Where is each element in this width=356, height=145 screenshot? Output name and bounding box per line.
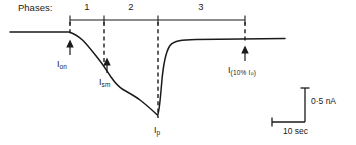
- phase-number-1: 1: [84, 2, 89, 12]
- label-i-p: Ip: [154, 126, 160, 136]
- label-i-10-percent-ip: I(10% Iₚ): [228, 66, 256, 76]
- phase-number-3: 3: [198, 2, 203, 12]
- arrow-i-on: [67, 41, 73, 55]
- phase-number-2: 2: [128, 2, 133, 12]
- scale-bar-group: [272, 88, 310, 127]
- trace-drawing: [0, 0, 356, 145]
- arrow-i-10-percent: [242, 47, 248, 61]
- label-i-on: Ion: [57, 60, 67, 70]
- label-i-on-subscript: on: [60, 63, 68, 70]
- dashed-guide-group: [70, 22, 245, 118]
- label-i-sm: Ism: [99, 78, 111, 88]
- phases-label: Phases:: [18, 3, 52, 13]
- current-trace-figure: Phases: 1 2 3 Ion Ism Ip I(10% Iₚ) 0·5 n…: [0, 0, 356, 145]
- scale-bar-horizontal-label: 10 sec: [283, 127, 308, 136]
- label-i-sm-subscript: sm: [102, 81, 111, 88]
- label-i-10-percent-subscript: (10% Iₚ): [231, 69, 257, 76]
- arrow-i-sm: [104, 59, 110, 73]
- scale-bar-vertical-label: 0·5 nA: [311, 97, 336, 106]
- label-i-p-subscript: p: [157, 129, 161, 136]
